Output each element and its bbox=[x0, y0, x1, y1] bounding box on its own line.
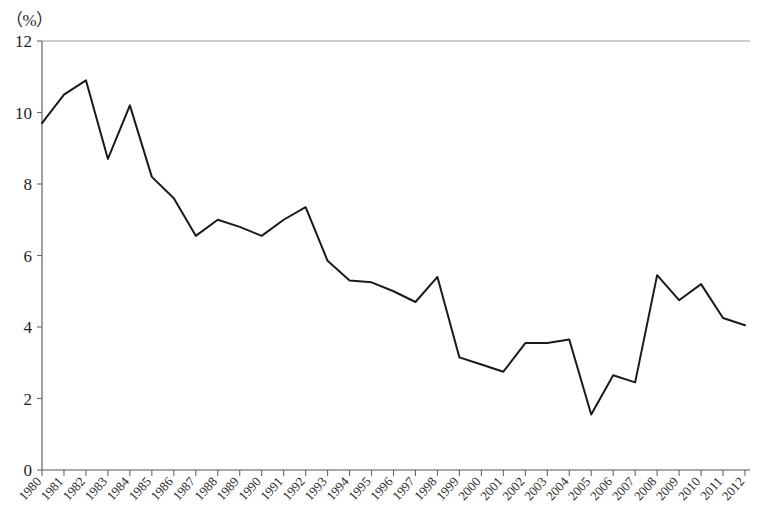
x-tick-label: 1998 bbox=[411, 474, 440, 503]
x-tick-label: 2001 bbox=[477, 474, 506, 503]
x-tick-label: 1985 bbox=[126, 474, 155, 503]
line-chart-plot: 024681012 198019811982198319841985198619… bbox=[0, 0, 767, 525]
x-tick-label: 1997 bbox=[389, 474, 418, 504]
y-axis-ticks: 024681012 bbox=[15, 32, 42, 480]
y-tick-label: 8 bbox=[24, 175, 33, 194]
x-tick-label: 1988 bbox=[191, 474, 220, 503]
data-series-line bbox=[42, 80, 745, 414]
x-tick-label: 2008 bbox=[631, 474, 660, 503]
y-tick-label: 2 bbox=[24, 390, 33, 409]
y-tick-label: 6 bbox=[24, 247, 33, 266]
x-tick-label: 2006 bbox=[587, 474, 616, 504]
x-tick-label: 2012 bbox=[719, 474, 748, 503]
y-tick-label: 4 bbox=[24, 318, 33, 337]
x-tick-label: 1990 bbox=[235, 474, 264, 503]
x-axis-ticks bbox=[42, 470, 745, 476]
x-tick-label: 1994 bbox=[323, 474, 352, 504]
x-tick-label: 1982 bbox=[60, 474, 89, 503]
x-tick-label: 1987 bbox=[169, 474, 198, 504]
y-tick-label: 12 bbox=[15, 32, 32, 51]
x-tick-label: 2004 bbox=[543, 474, 572, 504]
x-tick-label: 2000 bbox=[455, 474, 484, 503]
x-tick-label: 1996 bbox=[367, 474, 396, 504]
plot-frame bbox=[42, 41, 750, 470]
x-tick-label: 2009 bbox=[653, 474, 682, 503]
x-tick-label: 1986 bbox=[147, 474, 176, 504]
y-tick-label: 10 bbox=[15, 104, 32, 123]
x-tick-label: 2005 bbox=[565, 474, 594, 503]
x-tick-label: 2011 bbox=[697, 474, 725, 503]
x-axis-tick-labels: 1980198119821983198419851986198719881989… bbox=[16, 474, 748, 504]
x-tick-label: 1999 bbox=[433, 474, 462, 503]
x-tick-label: 1991 bbox=[257, 474, 286, 503]
chart-container: （%） 024681012 19801981198219831984198519… bbox=[0, 0, 767, 525]
x-tick-label: 2007 bbox=[609, 474, 638, 504]
x-tick-label: 1983 bbox=[82, 474, 111, 503]
x-tick-label: 1992 bbox=[279, 474, 308, 503]
x-tick-label: 1980 bbox=[16, 474, 45, 503]
x-tick-label: 1993 bbox=[301, 474, 330, 503]
x-tick-label: 2002 bbox=[499, 474, 528, 503]
x-tick-label: 2003 bbox=[521, 474, 550, 503]
x-tick-label: 1995 bbox=[345, 474, 374, 503]
x-tick-label: 1981 bbox=[38, 474, 67, 503]
x-tick-label: 1989 bbox=[213, 474, 242, 503]
x-tick-label: 1984 bbox=[104, 474, 133, 504]
x-tick-label: 2010 bbox=[675, 474, 704, 503]
